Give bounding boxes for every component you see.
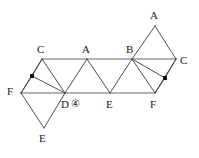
label-c-left: C <box>37 44 44 55</box>
edge-btop-aapex <box>132 26 155 59</box>
label-f-right: F <box>150 99 156 110</box>
circled-number-annotation: ④ <box>71 99 80 109</box>
vertex-dot-markers <box>30 74 167 80</box>
label-c-right: C <box>180 55 187 66</box>
marker-dot-left <box>30 74 34 78</box>
edge-atop-ebottom <box>87 59 110 93</box>
edge-dbottom-atop <box>65 59 87 93</box>
edge-dotright-fright <box>155 78 165 93</box>
label-e-apex: E <box>39 133 46 144</box>
label-a-top: A <box>82 44 90 55</box>
label-a-apex: A <box>150 10 158 21</box>
edge-dotleft-fleft <box>21 76 32 93</box>
label-d-bottom: D <box>61 99 69 110</box>
geometric-figure-canvas: CABCAFDEFE ④ <box>0 0 199 158</box>
edge-cleft-dbottom <box>42 59 65 93</box>
edge-dotright-cright <box>165 59 176 78</box>
triangle-edges <box>21 26 176 128</box>
label-e-bottom: E <box>106 99 113 110</box>
edge-btop-dotright <box>132 59 165 78</box>
edge-fleft-eapex <box>21 93 44 128</box>
edge-dotleft-cleft <box>32 59 42 76</box>
figure-svg <box>0 0 199 158</box>
label-b-top: B <box>126 44 133 55</box>
marker-dot-right <box>163 76 167 80</box>
edge-ebottom-btop <box>110 59 132 93</box>
edge-dbottom-dotleft <box>32 76 65 93</box>
label-f-left: F <box>7 86 13 97</box>
edge-btop-fright <box>132 59 155 93</box>
edge-aapex-cright <box>155 26 176 59</box>
